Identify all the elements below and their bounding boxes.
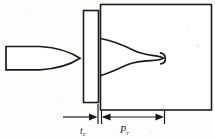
label-tc: tc (80, 126, 86, 136)
arrowhead-pr-right (156, 114, 165, 121)
arrowhead-pr-left (102, 114, 111, 121)
label-pr: Pr (120, 125, 129, 135)
projectile-outline (6, 47, 80, 70)
label-pr-subscript: r (126, 129, 129, 136)
label-tc-subscript: c (83, 130, 86, 137)
diagram-canvas (0, 0, 215, 139)
target-block (101, 5, 212, 111)
arrowhead-tc-right (89, 114, 98, 121)
cover-plate (84, 11, 99, 103)
penetration-diagram-figure: tc Pr (0, 0, 215, 139)
